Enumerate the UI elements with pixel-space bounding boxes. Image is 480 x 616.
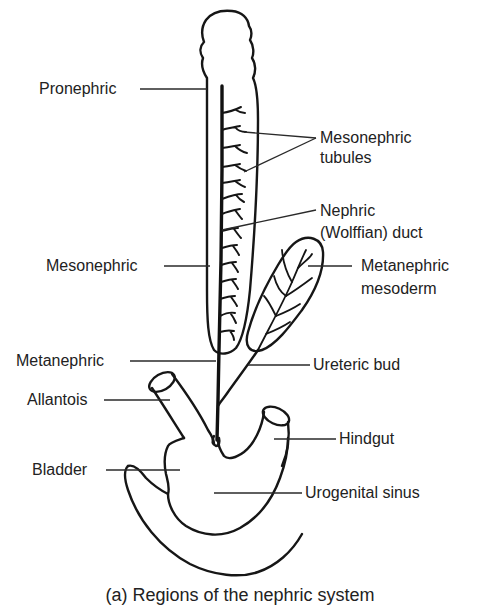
label-mesonephric-tubules-line2: tubules — [320, 148, 372, 168]
label-hindgut: Hindgut — [339, 429, 394, 449]
label-metanephric-mesoderm-line1: Metanephric — [361, 256, 449, 276]
label-nephric-duct-line2: (Wolffian) duct — [320, 223, 423, 243]
nephric-duct — [217, 86, 222, 440]
label-metanephric: Metanephric — [16, 351, 104, 371]
ureteric-bud-stalk — [218, 350, 258, 406]
figure-caption: (a) Regions of the nephric system — [0, 584, 480, 606]
label-nephric-duct-line1: Nephric — [320, 201, 375, 221]
label-pronephric: Pronephric — [39, 79, 116, 99]
label-mesonephric: Mesonephric — [46, 256, 138, 276]
hindgut-tube — [282, 422, 289, 466]
urogenital-sinus-outline — [165, 438, 288, 535]
allantois-tube — [152, 388, 184, 438]
label-allantois: Allantois — [27, 390, 87, 410]
label-bladder: Bladder — [32, 460, 87, 480]
label-metanephric-mesoderm-line2: mesoderm — [361, 279, 437, 299]
mesonephric-tubules — [220, 107, 247, 340]
label-mesonephric-tubules-line1: Mesonephric — [320, 128, 412, 148]
ureteric-bud-branches — [258, 250, 312, 350]
label-urogenital-sinus: Urogenital sinus — [305, 483, 420, 503]
label-ureteric-bud: Ureteric bud — [313, 355, 400, 375]
allantois-opening — [146, 368, 178, 396]
